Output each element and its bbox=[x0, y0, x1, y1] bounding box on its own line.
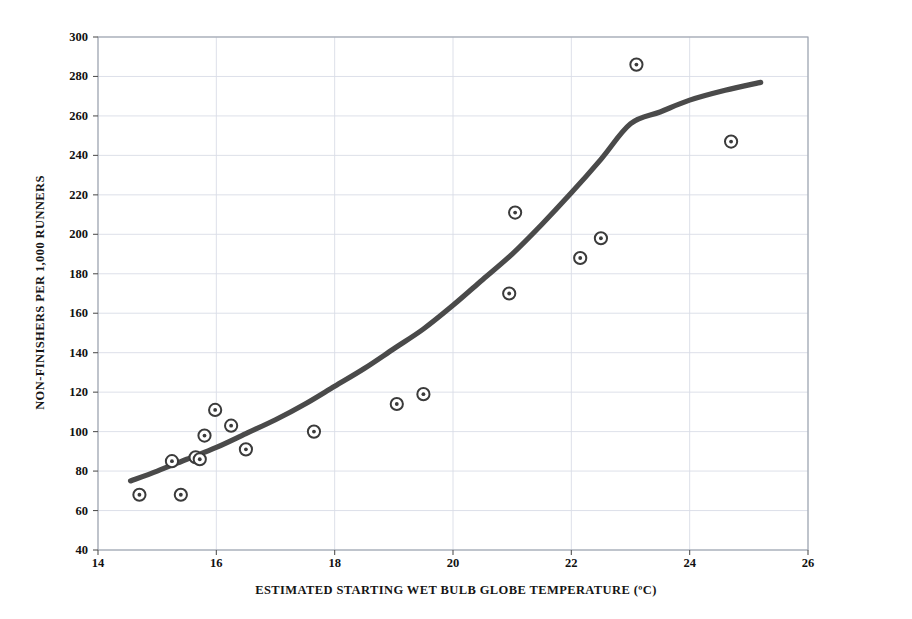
x-tick-label-5: 24 bbox=[683, 556, 696, 571]
data-point-center-10 bbox=[395, 402, 399, 406]
y-axis-title: NON-FINISHERS PER 1,000 RUNNERS bbox=[33, 113, 48, 473]
plot-canvas bbox=[0, 0, 912, 619]
data-point-center-13 bbox=[513, 211, 517, 215]
x-tick-label-4: 22 bbox=[565, 556, 578, 571]
x-tick-label-6: 26 bbox=[802, 556, 815, 571]
y-tick-label-7: 180 bbox=[52, 266, 88, 281]
y-tick-label-1: 60 bbox=[52, 503, 88, 518]
data-point-center-8 bbox=[244, 447, 248, 451]
y-tick-label-4: 120 bbox=[52, 385, 88, 400]
y-tick-label-12: 280 bbox=[52, 69, 88, 84]
data-point-center-9 bbox=[312, 430, 316, 434]
y-tick-label-6: 160 bbox=[52, 306, 88, 321]
y-tick-label-10: 240 bbox=[52, 148, 88, 163]
data-point-center-6 bbox=[213, 408, 217, 412]
y-tick-label-8: 200 bbox=[52, 227, 88, 242]
y-tick-label-3: 100 bbox=[52, 424, 88, 439]
y-tick-label-9: 220 bbox=[52, 187, 88, 202]
y-tick-label-5: 140 bbox=[52, 345, 88, 360]
data-point-center-16 bbox=[635, 63, 639, 67]
data-point-center-12 bbox=[507, 292, 511, 296]
y-tick-label-11: 260 bbox=[52, 108, 88, 123]
data-point-center-2 bbox=[179, 493, 183, 497]
x-tick-label-0: 14 bbox=[92, 556, 105, 571]
x-tick-label-2: 18 bbox=[328, 556, 341, 571]
data-point-center-11 bbox=[422, 392, 426, 396]
data-point-center-15 bbox=[599, 236, 603, 240]
data-point-center-4 bbox=[198, 457, 202, 461]
data-point-center-1 bbox=[170, 459, 174, 463]
data-point-center-5 bbox=[203, 434, 207, 438]
scatter-chart: ESTIMATED STARTING WET BULB GLOBE TEMPER… bbox=[0, 0, 912, 619]
data-point-center-14 bbox=[578, 256, 582, 260]
y-tick-label-0: 40 bbox=[52, 543, 88, 558]
x-tick-label-1: 16 bbox=[210, 556, 223, 571]
y-tick-label-2: 80 bbox=[52, 464, 88, 479]
data-point-center-0 bbox=[138, 493, 142, 497]
y-tick-label-13: 300 bbox=[52, 30, 88, 45]
data-point-center-7 bbox=[229, 424, 233, 428]
data-point-center-17 bbox=[729, 140, 733, 144]
x-tick-label-3: 20 bbox=[447, 556, 460, 571]
x-axis-title: ESTIMATED STARTING WET BULB GLOBE TEMPER… bbox=[0, 583, 912, 598]
